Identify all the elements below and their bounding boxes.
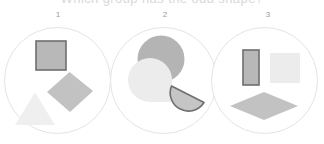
outlined-half-disc-shape bbox=[170, 86, 204, 111]
panel-circle-1[interactable] bbox=[4, 27, 111, 134]
panel-label-1: 1 bbox=[38, 10, 78, 20]
panel-circle-3[interactable] bbox=[211, 27, 318, 134]
pale-square-shape bbox=[270, 53, 300, 83]
triangle-shape bbox=[15, 93, 55, 126]
cropped-heading-text: Which group has the odd shape? bbox=[0, 0, 324, 7]
outlined-vertical-rectangle-shape bbox=[243, 50, 259, 85]
panel-circle-2[interactable] bbox=[110, 27, 217, 134]
pie-with-wedge-removed-shape bbox=[128, 58, 172, 102]
flat-rhombus-shape bbox=[230, 92, 298, 120]
outlined-square-shape bbox=[36, 41, 66, 70]
panel-label-3: 3 bbox=[248, 10, 288, 20]
panel-label-2: 2 bbox=[145, 10, 185, 20]
rotated-square-diamond-shape bbox=[47, 72, 93, 112]
shape-groups-figure: Which group has the odd shape? 1 2 3 bbox=[0, 0, 324, 144]
